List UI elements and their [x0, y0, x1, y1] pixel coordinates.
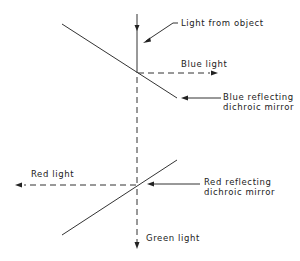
arrow-down-icon [135, 242, 140, 249]
label-blue-mirror-line2: dichroic mirror [223, 102, 294, 112]
arrow-head-icon [143, 38, 151, 44]
label-blue-light: Blue light [181, 59, 227, 69]
label-blue-mirror-line1: Blue reflecting [223, 92, 294, 102]
incoming-light-beam [135, 14, 140, 73]
label-red-mirror-line2: dichroic mirror [204, 187, 275, 197]
arrow-left-icon [15, 183, 22, 188]
arrow-down-icon [135, 25, 140, 31]
blue-reflecting-mirror [62, 24, 177, 98]
arrow-right-icon [211, 71, 218, 76]
dichroic-mirror-diagram: Light from object Blue light Blue reflec… [0, 0, 300, 261]
label-red-light: Red light [31, 169, 74, 179]
red-reflecting-mirror [62, 160, 177, 235]
label-red-mirror-line1: Red reflecting [204, 177, 272, 187]
arrow-left-icon [181, 96, 188, 101]
arrow-left-icon [147, 182, 154, 187]
red-light-beam [15, 183, 136, 188]
blue-mirror-leader [181, 96, 221, 101]
red-mirror-leader [147, 182, 200, 187]
green-light-beam [135, 189, 140, 249]
blue-light-beam [138, 71, 218, 76]
incoming-light-leader [143, 23, 178, 43]
label-incoming-light: Light from object [181, 18, 264, 28]
label-green-light: Green light [146, 233, 200, 243]
